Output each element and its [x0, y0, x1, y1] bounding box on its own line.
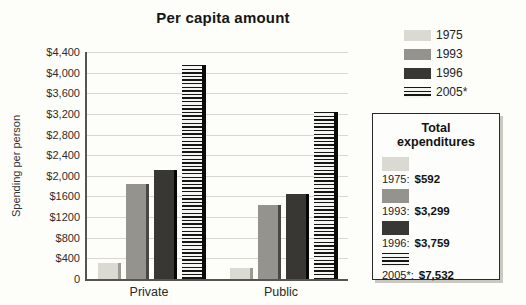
bar-1996-public — [286, 194, 309, 279]
bar-2005-private — [182, 65, 206, 279]
legend-row-1996: 1996 — [404, 67, 467, 79]
legend-label: 1993 — [436, 47, 463, 61]
y-tick-label: 0 — [2, 273, 80, 285]
total-expenditures-box: Total expenditures 1975:$5921993:$3,2991… — [372, 113, 500, 280]
total-amount: $7,532 — [419, 269, 454, 281]
y-tick-label: $1200 — [2, 211, 80, 223]
total-swatch-1975 — [382, 157, 409, 171]
y-tick-label: $2,400 — [2, 149, 80, 161]
y-tick-label: $800 — [2, 232, 80, 244]
gridline — [87, 52, 348, 53]
x-category-label-public: Public — [241, 285, 321, 299]
total-line: 1993:$3,299 — [382, 205, 490, 217]
bar-1993-private — [126, 184, 149, 279]
legend: 1975199319962005* — [404, 29, 467, 105]
bar-1996-private — [154, 170, 177, 279]
y-tick-label: $4,000 — [2, 67, 80, 79]
total-year-label: 1996: — [382, 237, 410, 249]
legend-swatch-1993 — [404, 49, 431, 60]
y-tick-label: $400 — [2, 252, 80, 264]
x-category-label-private: Private — [109, 285, 189, 299]
y-tick-label: $4,400 — [2, 46, 80, 58]
total-amount: $592 — [415, 173, 441, 185]
total-entry-2005: 2005*:$7,532 — [382, 253, 490, 281]
total-line: 1975:$592 — [382, 173, 490, 185]
gridline — [87, 93, 348, 94]
legend-label: 1996 — [436, 66, 463, 80]
y-tick-label: $1600 — [2, 190, 80, 202]
total-line: 2005*:$7,532 — [382, 269, 490, 281]
gridline — [87, 155, 348, 156]
plot-area — [85, 52, 348, 281]
legend-row-2005: 2005* — [404, 86, 467, 98]
total-swatch-2005 — [382, 253, 409, 267]
total-entry-1993: 1993:$3,299 — [382, 189, 490, 217]
y-tick-label: $3,200 — [2, 108, 80, 120]
chart-title: Per capita amount — [85, 9, 361, 26]
legend-row-1975: 1975 — [404, 29, 467, 41]
total-entry-1975: 1975:$592 — [382, 157, 490, 185]
total-year-label: 1993: — [382, 205, 410, 217]
gridline — [87, 176, 348, 177]
total-line: 1996:$3,759 — [382, 237, 490, 249]
legend-label: 1975 — [436, 28, 463, 42]
total-year-label: 2005*: — [382, 269, 414, 281]
total-expenditures-entries: 1975:$5921993:$3,2991996:$3,7592005*:$7,… — [382, 157, 490, 281]
legend-swatch-1975 — [404, 30, 431, 41]
legend-swatch-1996 — [404, 68, 431, 79]
total-amount: $3,299 — [415, 205, 450, 217]
total-amount: $3,759 — [415, 237, 450, 249]
gridline — [87, 114, 348, 115]
total-entry-1996: 1996:$3,759 — [382, 221, 490, 249]
y-tick-label: $3,600 — [2, 87, 80, 99]
bar-2005-public — [314, 112, 338, 279]
bar-1975-public — [230, 268, 253, 279]
total-swatch-1993 — [382, 189, 409, 203]
gridline — [87, 73, 348, 74]
legend-label: 2005* — [436, 85, 467, 99]
bar-1975-private — [98, 263, 121, 280]
total-year-label: 1975: — [382, 173, 410, 185]
bar-1993-public — [258, 205, 281, 279]
gridline — [87, 135, 348, 136]
total-swatch-1996 — [382, 221, 409, 235]
y-tick-label: $2,000 — [2, 170, 80, 182]
legend-swatch-2005 — [404, 87, 431, 98]
legend-row-1993: 1993 — [404, 48, 467, 60]
total-expenditures-title: Total expenditures — [382, 121, 490, 149]
y-tick-label: $2,800 — [2, 129, 80, 141]
